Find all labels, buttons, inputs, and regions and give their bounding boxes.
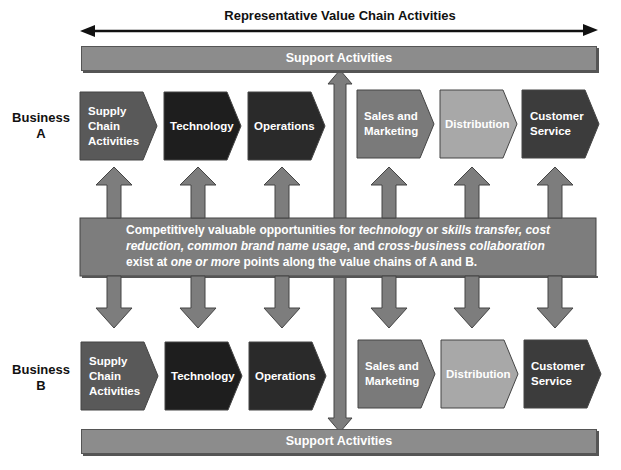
- b-distribution: Distribution: [446, 340, 516, 408]
- a-operations: Operations: [254, 92, 324, 160]
- double-arrow-icon: [80, 24, 598, 37]
- a-technology: Technology: [170, 92, 240, 160]
- business-b-label: Business B: [10, 362, 72, 394]
- b-operations: Operations: [255, 342, 325, 410]
- a-sales-marketing: Sales and Marketing: [364, 90, 424, 158]
- b-technology: Technology: [171, 342, 241, 410]
- support-activities-bottom: Support Activities: [81, 429, 597, 454]
- a-distribution: Distribution: [445, 90, 515, 158]
- support-activities-top: Support Activities: [81, 46, 597, 71]
- synergy-description: Competitively valuable opportunities for…: [126, 222, 566, 270]
- b-sales-marketing: Sales and Marketing: [365, 340, 425, 408]
- a-customer-service: Customer Service: [530, 90, 590, 158]
- business-a-label: Business A: [10, 110, 72, 142]
- a-supply-chain: Supply Chain Activities: [88, 92, 148, 160]
- b-customer-service: Customer Service: [531, 340, 591, 408]
- b-supply-chain: Supply Chain Activities: [89, 342, 149, 410]
